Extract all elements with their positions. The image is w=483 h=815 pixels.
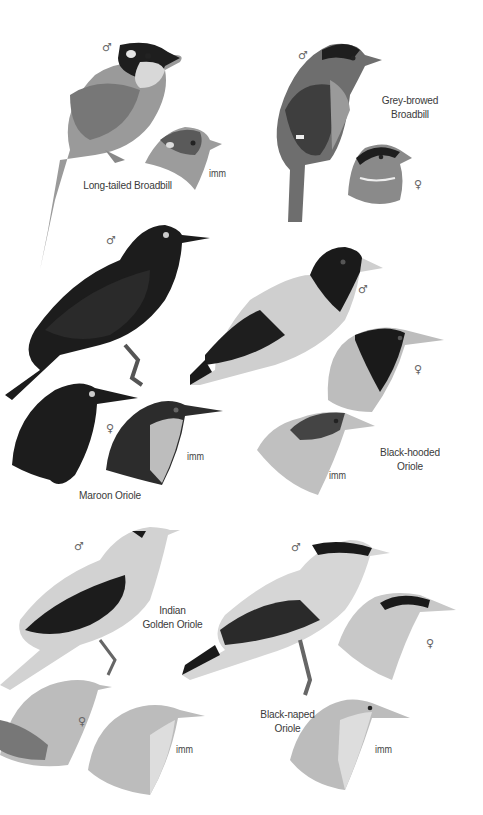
- species-label-long-tailed-broadbill: Long-tailed Broadbill: [77, 178, 178, 192]
- imm-label: imm: [176, 744, 193, 755]
- black-hooded-oriole-imm-illustration: [257, 412, 375, 495]
- female-symbol: ♀: [426, 637, 434, 650]
- imm-label: imm: [209, 168, 226, 179]
- species-label-indian-golden-oriole: Indian Golden Oriole: [135, 603, 210, 631]
- maroon-oriole-male-illustration: [5, 225, 210, 400]
- male-symbol: ♂: [102, 41, 112, 54]
- bird-illustrations: [0, 0, 483, 815]
- black-naped-oriole-female-illustration: [338, 593, 456, 680]
- imm-label: imm: [329, 470, 346, 481]
- male-symbol: ♂: [74, 540, 84, 553]
- female-symbol: ♀: [414, 363, 422, 376]
- field-guide-plate: ♂ imm Long-tailed Broadbill ♂ ♀ Grey-bro…: [0, 0, 483, 815]
- male-symbol: ♂: [358, 283, 368, 296]
- species-label-black-hooded-oriole: Black-hooded Oriole: [375, 445, 445, 473]
- male-symbol: ♂: [298, 49, 308, 62]
- imm-label: imm: [187, 451, 204, 462]
- female-symbol: ♀: [78, 715, 86, 728]
- female-symbol: ♀: [106, 422, 114, 435]
- male-symbol: ♂: [291, 541, 301, 554]
- species-label-maroon-oriole: Maroon Oriole: [75, 488, 145, 502]
- black-hooded-oriole-female-illustration: [328, 327, 444, 412]
- male-symbol: ♂: [106, 234, 116, 247]
- grey-browed-broadbill-female-illustration: [348, 144, 412, 204]
- female-symbol: ♀: [414, 178, 422, 191]
- maroon-oriole-imm-illustration: [106, 401, 223, 485]
- species-label-grey-browed-broadbill: Grey-browed Broadbill: [375, 93, 445, 121]
- species-label-black-naped-oriole: Black-naped Oriole: [255, 707, 321, 735]
- imm-label: imm: [375, 744, 392, 755]
